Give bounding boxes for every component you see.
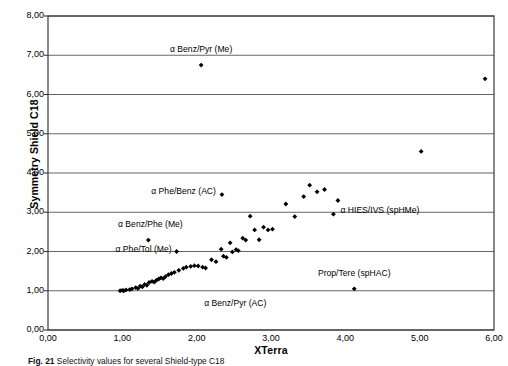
y-axis-tick-label: 8,00 [4,11,44,20]
data-point [266,228,271,233]
point-annotation: α Benz/Pyr (Me) [170,45,232,54]
data-point [257,237,262,242]
data-point [270,227,275,232]
data-point [192,263,197,268]
data-point [322,187,327,192]
x-axis-tick-label: 6,00 [469,334,508,343]
data-point [336,198,341,203]
point-annotation: α HIES/IVS (spHMe) [340,206,419,215]
point-annotation: α Phe/Tol (Me) [116,245,172,254]
x-axis-tick-label: 2,00 [172,334,222,343]
x-axis-tick-label: 4,00 [320,334,370,343]
x-axis-tick-label: 3,00 [246,334,296,343]
data-point [252,228,257,233]
data-point [228,240,233,245]
data-point [292,214,297,219]
data-point [219,247,224,252]
data-point [307,183,312,188]
data-point [261,225,266,230]
x-axis-title: XTerra [48,344,494,356]
data-point [199,63,204,68]
data-point [483,76,488,81]
y-axis-tick-label: 7,00 [4,50,44,59]
point-annotation: Prop/Tere (spHAC) [318,269,391,278]
data-point [230,249,235,254]
data-point [248,214,253,219]
data-point [283,202,288,207]
data-point [196,264,201,269]
caption-text: Selectivity values for several Shield-ty… [57,356,225,366]
point-annotation: α Benz/Pyr (AC) [204,299,266,308]
data-point [188,264,193,269]
y-axis-tick-label: 0,00 [4,325,44,334]
data-point [301,194,306,199]
x-axis-tick-label: 0,00 [23,334,73,343]
figure-caption: Fig. 21 Selectivity values for several S… [28,356,224,366]
y-axis-tick-label: 2,00 [4,247,44,256]
x-axis-tick-label: 5,00 [395,334,445,343]
point-annotation: α Phe/Benz (AC) [151,187,216,196]
data-point [146,238,151,243]
figure-number: Fig. 21 [28,356,55,366]
y-axis-tick-label: 1,00 [4,286,44,295]
data-point [214,259,219,264]
x-axis-tick-label: 1,00 [97,334,147,343]
data-point [176,268,181,273]
y-axis-title: Symmetry Shield C18 [28,74,40,234]
point-annotation: α Benz/Phe (Me) [118,220,183,229]
data-point [419,149,424,154]
data-point [220,192,225,197]
data-point [315,189,320,194]
data-point [209,257,214,262]
data-point [174,249,179,254]
